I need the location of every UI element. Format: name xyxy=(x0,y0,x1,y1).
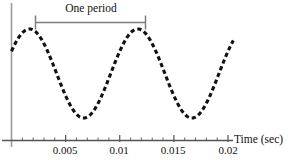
x-tick-label-0.005: 0.005 xyxy=(44,144,86,156)
waveform-curve xyxy=(12,29,234,118)
x-axis-title: Time (sec) xyxy=(234,133,283,145)
x-tick-label-0.015: 0.015 xyxy=(152,144,194,156)
one-period-label: One period xyxy=(50,2,132,15)
one-period-bar xyxy=(36,16,146,30)
waveform-figure: 0.005 0.01 0.015 0.02 Time (sec) One per… xyxy=(0,0,288,160)
x-tick-label-0.02: 0.02 xyxy=(210,144,246,156)
x-tick-label-0.01: 0.01 xyxy=(101,144,137,156)
